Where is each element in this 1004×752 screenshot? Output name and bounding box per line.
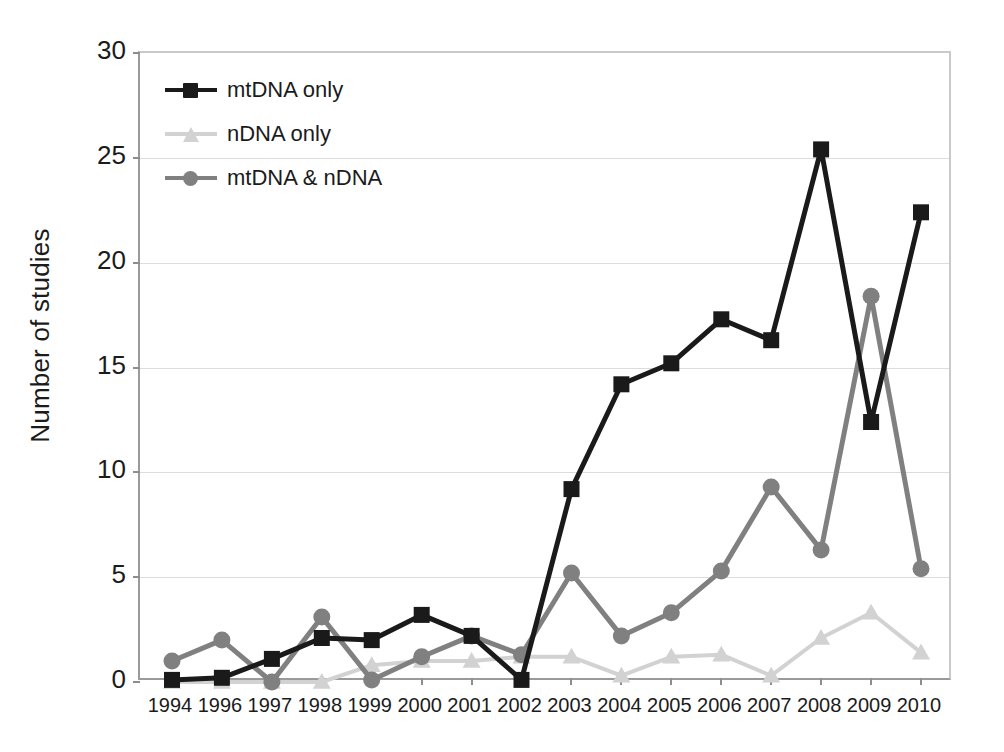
data-point <box>813 141 829 157</box>
data-point <box>263 674 280 691</box>
legend-label: mtDNA & nDNA <box>217 165 382 191</box>
series-line <box>172 296 921 682</box>
data-point <box>514 672 530 688</box>
legend-marker-square-icon <box>165 81 217 99</box>
x-tick-label: 2010 <box>890 695 948 715</box>
data-point <box>813 541 830 558</box>
y-tick-mark <box>133 157 140 159</box>
data-point <box>214 670 230 686</box>
data-point <box>713 562 730 579</box>
series-line <box>172 613 921 682</box>
chart-container: Number of studies 051015202530 199419961… <box>0 0 1004 752</box>
y-tick-label: 15 <box>64 352 126 378</box>
y-tick-label: 0 <box>64 666 126 692</box>
data-point <box>363 671 380 688</box>
legend-marker-triangle-icon <box>165 125 217 143</box>
data-point <box>213 632 230 649</box>
legend-item[interactable]: mtDNA only <box>165 68 425 112</box>
y-tick-mark <box>133 681 140 683</box>
data-point <box>314 630 330 646</box>
data-point <box>563 565 580 582</box>
y-tick-label: 20 <box>64 247 126 273</box>
legend-marker <box>183 83 198 98</box>
y-tick-mark <box>133 471 140 473</box>
data-point <box>413 648 430 665</box>
data-point <box>164 653 181 670</box>
legend-label: nDNA only <box>217 121 331 147</box>
data-point <box>863 288 880 305</box>
series-mtdna-only <box>164 141 929 688</box>
data-point <box>663 355 679 371</box>
y-tick-label: 25 <box>64 142 126 168</box>
data-point <box>564 481 580 497</box>
data-point <box>414 607 430 623</box>
legend-marker <box>183 127 199 142</box>
data-point <box>763 479 780 496</box>
legend-marker-circle-icon <box>165 169 217 187</box>
data-point <box>164 672 180 688</box>
data-point <box>364 632 380 648</box>
legend-item[interactable]: mtDNA & nDNA <box>165 156 425 200</box>
data-point <box>313 609 330 626</box>
y-tick-label: 5 <box>64 561 126 587</box>
data-point <box>464 628 480 644</box>
y-tick-mark <box>133 262 140 264</box>
data-point <box>913 560 930 577</box>
data-point <box>613 627 630 644</box>
series-line <box>172 149 921 680</box>
y-axis-title: Number of studies <box>25 106 56 566</box>
data-point <box>763 332 779 348</box>
legend-label: mtDNA only <box>217 77 343 103</box>
data-point <box>713 311 729 327</box>
series-mtdna-ndna <box>164 288 930 691</box>
legend-marker <box>183 171 198 186</box>
data-point <box>613 376 629 392</box>
data-point <box>863 414 879 430</box>
y-tick-mark <box>133 367 140 369</box>
data-point <box>862 604 880 620</box>
data-point <box>264 651 280 667</box>
legend-item[interactable]: nDNA only <box>165 112 425 156</box>
y-tick-label: 10 <box>64 456 126 482</box>
y-tick-mark <box>133 52 140 54</box>
legend: mtDNA onlynDNA onlymtDNA & nDNA <box>165 68 425 200</box>
data-point <box>663 604 680 621</box>
data-point <box>913 204 929 220</box>
y-tick-mark <box>133 576 140 578</box>
y-tick-label: 30 <box>64 37 126 63</box>
